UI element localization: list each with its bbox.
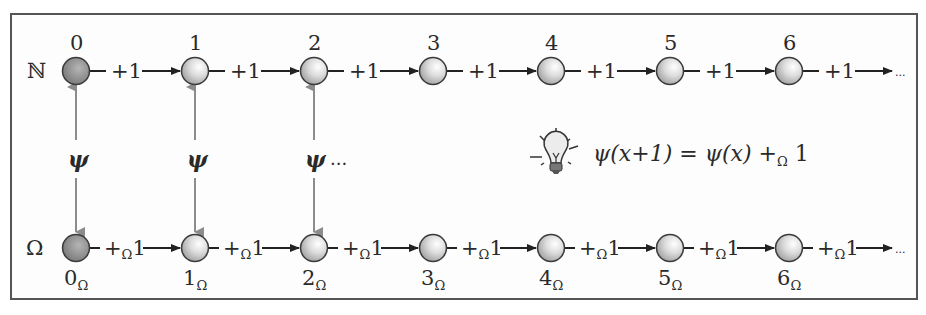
edge-label-omega-1: +Ω1 bbox=[223, 238, 265, 261]
node-label-omega-0: 0Ω bbox=[64, 268, 88, 292]
edge-label-omega-4: +Ω1 bbox=[579, 238, 621, 261]
edge-label-n-6: +1 bbox=[824, 61, 855, 82]
node-label-omega-5: 5Ω bbox=[658, 268, 682, 292]
node-omega-0 bbox=[63, 235, 90, 262]
node-omega-4 bbox=[538, 235, 565, 262]
edge-label-omega-5: +Ω1 bbox=[698, 238, 740, 261]
psi-continuation: ... bbox=[330, 150, 347, 168]
equation-equals: = bbox=[679, 141, 697, 166]
psi-label-2: ψ bbox=[305, 148, 326, 170]
set-label-omega: Ω bbox=[26, 238, 43, 259]
set-label-naturals: ℕ bbox=[27, 61, 46, 82]
node-n-2 bbox=[301, 58, 328, 85]
node-n-6 bbox=[776, 58, 803, 85]
edge-label-n-4: +1 bbox=[586, 61, 617, 82]
node-label-omega-4: 4Ω bbox=[539, 268, 563, 292]
bottom-row-continuation: ... bbox=[895, 243, 906, 256]
lightbulb-icon bbox=[530, 128, 578, 174]
node-label-n-0: 0 bbox=[70, 33, 83, 54]
node-label-n-6: 6 bbox=[783, 33, 796, 54]
equation-rhs-base: ψ(x) bbox=[705, 141, 752, 166]
node-omega-6 bbox=[776, 235, 803, 262]
node-n-4 bbox=[538, 58, 565, 85]
node-label-n-4: 4 bbox=[545, 33, 558, 54]
node-label-n-3: 3 bbox=[427, 33, 440, 54]
equation-rhs-op-sub: Ω bbox=[777, 154, 788, 169]
edge-label-omega-2: +Ω1 bbox=[342, 238, 384, 261]
psi-equation: ψ(x+1) = ψ(x) +Ω 1 bbox=[593, 143, 809, 168]
node-label-n-5: 5 bbox=[664, 33, 677, 54]
edge-label-n-1: +1 bbox=[230, 61, 261, 82]
equation-rhs-one: 1 bbox=[795, 141, 809, 166]
node-n-0 bbox=[63, 58, 90, 85]
equation-rhs-op: + bbox=[759, 141, 777, 166]
node-label-n-1: 1 bbox=[189, 33, 202, 54]
node-label-n-2: 2 bbox=[308, 33, 321, 54]
edge-label-n-5: +1 bbox=[705, 61, 736, 82]
node-omega-3 bbox=[420, 235, 447, 262]
edge-label-omega-0: +Ω1 bbox=[104, 238, 146, 261]
edge-label-n-0: +1 bbox=[111, 61, 142, 82]
node-n-3 bbox=[420, 58, 447, 85]
psi-label-1: ψ bbox=[187, 148, 208, 170]
node-n-1 bbox=[182, 58, 209, 85]
equation-lhs: ψ(x+1) bbox=[593, 141, 672, 166]
edge-label-n-3: +1 bbox=[468, 61, 499, 82]
node-omega-1 bbox=[182, 235, 209, 262]
edge-label-omega-6: +Ω1 bbox=[817, 238, 859, 261]
node-label-omega-6: 6Ω bbox=[777, 268, 801, 292]
node-n-5 bbox=[657, 58, 684, 85]
node-label-omega-3: 3Ω bbox=[421, 268, 445, 292]
node-label-omega-2: 2Ω bbox=[302, 268, 326, 292]
psi-label-0: ψ bbox=[68, 148, 89, 170]
node-omega-5 bbox=[657, 235, 684, 262]
node-label-omega-1: 1Ω bbox=[183, 268, 207, 292]
node-omega-2 bbox=[301, 235, 328, 262]
edge-label-omega-3: +Ω1 bbox=[461, 238, 503, 261]
top-row-continuation: ... bbox=[895, 66, 906, 79]
edge-label-n-2: +1 bbox=[349, 61, 380, 82]
